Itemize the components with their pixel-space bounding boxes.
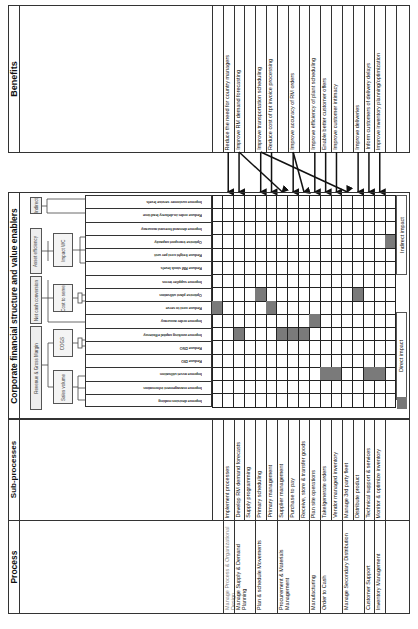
matrix-cell — [288, 288, 299, 302]
matrix-cell — [223, 248, 234, 262]
matrix-cell — [331, 208, 342, 222]
process-label: Procurement & Materials Management — [279, 524, 308, 610]
matrix-cell — [309, 248, 320, 262]
matrix-cell — [299, 195, 310, 209]
matrix-cell — [234, 222, 245, 236]
matrix-cell — [374, 367, 385, 381]
matrix-cell — [320, 261, 331, 275]
matrix-cell — [374, 381, 385, 395]
matrix-cell — [266, 261, 277, 275]
matrix-cell — [342, 248, 353, 262]
matrix-cell — [374, 341, 385, 355]
matrix-cell — [288, 261, 299, 275]
matrix-cell — [331, 367, 342, 381]
matrix-cell — [309, 261, 320, 275]
matrix-cell — [234, 328, 245, 342]
matrix-cell — [353, 288, 364, 302]
matrix-cell — [374, 208, 385, 222]
matrix-cell — [223, 314, 234, 328]
matrix-cell — [234, 341, 245, 355]
matrix-cell — [309, 328, 320, 342]
matrix-cell — [320, 208, 331, 222]
matrix-cell — [277, 328, 288, 342]
matrix-cell — [385, 328, 396, 342]
matrix-cell — [353, 195, 364, 209]
matrix-cell — [364, 222, 375, 236]
matrix-cell — [320, 195, 331, 209]
matrix-cell — [320, 381, 331, 395]
matrix-cell — [212, 328, 223, 342]
subprocess-label: Manage 3rd party fleet — [344, 463, 350, 518]
matrix-cell — [255, 381, 266, 395]
matrix-cell — [255, 301, 266, 315]
matrix-cell — [320, 314, 331, 328]
matrix-cell — [299, 367, 310, 381]
matrix-cell — [353, 248, 364, 262]
matrix-cell — [331, 275, 342, 289]
matrix-cell — [212, 301, 223, 315]
driver-label: Improve working capital efficiency — [92, 332, 202, 338]
matrix-cell — [309, 394, 320, 408]
matrix-cell — [385, 275, 396, 289]
matrix-cell — [234, 367, 245, 381]
matrix-cell — [277, 195, 288, 209]
matrix-cell — [331, 288, 342, 302]
matrix-cell — [364, 341, 375, 355]
process-label: Manufacturing — [311, 524, 319, 610]
matrix-cell — [244, 381, 255, 395]
matrix-cell — [223, 328, 234, 342]
driver-label: Reduce RM stock levels — [92, 265, 202, 271]
matrix-cell — [255, 394, 266, 408]
matrix-cell — [364, 301, 375, 315]
driver-label: Improve customer service levels — [92, 199, 202, 205]
matrix-cell — [288, 341, 299, 355]
matrix-cell — [266, 354, 277, 368]
matrix-cell — [288, 328, 299, 342]
matrix-cell — [277, 261, 288, 275]
matrix-cell — [299, 235, 310, 249]
matrix-cell — [212, 261, 223, 275]
matrix-cell — [277, 381, 288, 395]
matrix-cell — [374, 261, 385, 275]
matrix-cell — [320, 394, 331, 408]
matrix-cell — [364, 195, 375, 209]
matrix-cell — [255, 314, 266, 328]
matrix-cell — [342, 275, 353, 289]
matrix-cell — [299, 275, 310, 289]
matrix-cell — [299, 301, 310, 315]
matrix-cell — [223, 195, 234, 209]
matrix-cell — [234, 314, 245, 328]
matrix-cell — [342, 288, 353, 302]
matrix-cell — [320, 235, 331, 249]
subprocess-label: Plan site operations — [311, 470, 317, 518]
driver-label: Optimise plant utilisation — [92, 292, 202, 298]
matrix-cell — [234, 261, 245, 275]
matrix-cell — [353, 354, 364, 368]
matrix-cell — [234, 288, 245, 302]
process-label: Inventory Management — [376, 524, 384, 610]
matrix-cell — [223, 275, 234, 289]
matrix-cell — [299, 222, 310, 236]
matrix-cell — [212, 235, 223, 249]
matrix-cell — [385, 208, 396, 222]
matrix-cell — [234, 235, 245, 249]
matrix-cell — [255, 328, 266, 342]
matrix-cell — [331, 248, 342, 262]
matrix-cell — [309, 288, 320, 302]
matrix-cell — [331, 195, 342, 209]
matrix-cell — [244, 367, 255, 381]
matrix-cell — [223, 394, 234, 408]
matrix-cell — [342, 222, 353, 236]
matrix-cell — [364, 328, 375, 342]
matrix-cell — [320, 248, 331, 262]
matrix-cell — [223, 222, 234, 236]
matrix-cell — [309, 275, 320, 289]
matrix-cell — [342, 367, 353, 381]
matrix-cell — [342, 381, 353, 395]
matrix-cell — [288, 235, 299, 249]
matrix-cell — [309, 354, 320, 368]
driver-label: Reduce order-to-delivery lead time — [92, 212, 202, 218]
matrix-cell — [244, 341, 255, 355]
matrix-cell — [234, 301, 245, 315]
matrix-cell — [244, 248, 255, 262]
